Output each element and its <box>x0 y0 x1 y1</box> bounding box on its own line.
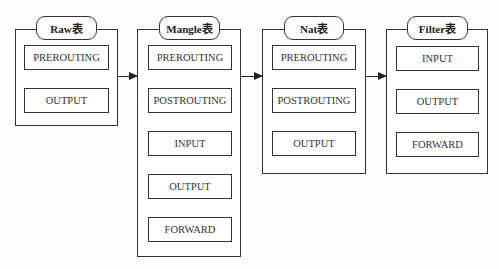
mangle-table-title: Mangle表 <box>159 16 220 40</box>
mangle-chain-prerouting: PREROUTING <box>148 45 232 70</box>
mangle-chain-output: OUTPUT <box>148 174 232 199</box>
mangle-chain-forward: FORWARD <box>148 217 232 242</box>
filter-chain-input: INPUT <box>396 46 479 71</box>
raw-chain-output: OUTPUT <box>24 88 109 113</box>
raw-table-title: Raw表 <box>36 16 97 40</box>
raw-chain-prerouting: PREROUTING <box>24 45 109 70</box>
mangle-chain-input: INPUT <box>148 131 232 156</box>
nat-table-title: Nat表 <box>284 16 344 40</box>
filter-chain-output: OUTPUT <box>396 89 479 114</box>
nat-chain-prerouting: PREROUTING <box>272 45 356 70</box>
nat-chain-output: OUTPUT <box>272 131 356 156</box>
arrow-raw-to-mangle <box>118 76 137 77</box>
filter-chain-forward: FORWARD <box>396 132 479 157</box>
arrow-nat-to-filter <box>366 76 386 77</box>
mangle-chain-postrouting: POSTROUTING <box>148 88 232 113</box>
nat-chain-postrouting: POSTROUTING <box>272 88 356 113</box>
arrow-mangle-to-nat <box>241 76 262 77</box>
filter-table-title: Filter表 <box>407 16 468 40</box>
